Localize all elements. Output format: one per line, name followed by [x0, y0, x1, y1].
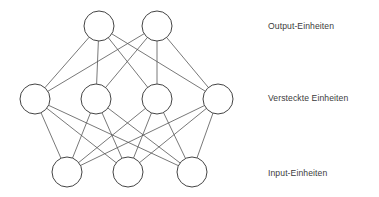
neural-network-diagram: Output-Einheiten Versteckte Einheiten In…	[0, 0, 379, 197]
connection-edge	[102, 113, 122, 159]
connection-edge	[41, 113, 61, 159]
layer-label-hidden: Versteckte Einheiten	[268, 93, 348, 103]
node-input-3	[177, 157, 207, 187]
node-input-2	[113, 157, 143, 187]
nodes-group	[20, 11, 233, 187]
layer-label-output: Output-Einheiten	[268, 21, 334, 31]
connection-edge	[112, 34, 205, 91]
node-input-1	[52, 157, 82, 187]
connection-edge	[48, 34, 144, 92]
connection-edge	[47, 108, 116, 162]
connection-edge	[106, 38, 148, 88]
connection-edge	[97, 41, 99, 84]
node-hidden-1	[20, 84, 50, 114]
connection-edge	[134, 113, 152, 158]
node-output-1	[84, 11, 114, 41]
node-hidden-3	[142, 84, 172, 114]
connection-edge	[108, 38, 147, 88]
node-hidden-2	[81, 84, 111, 114]
node-output-2	[142, 11, 172, 41]
connection-edge	[108, 108, 180, 163]
node-hidden-4	[203, 84, 233, 114]
layer-label-input: Input-Einheiten	[268, 168, 327, 178]
connection-edge	[163, 113, 185, 159]
connection-edge	[197, 113, 213, 158]
edges-group	[41, 34, 213, 166]
